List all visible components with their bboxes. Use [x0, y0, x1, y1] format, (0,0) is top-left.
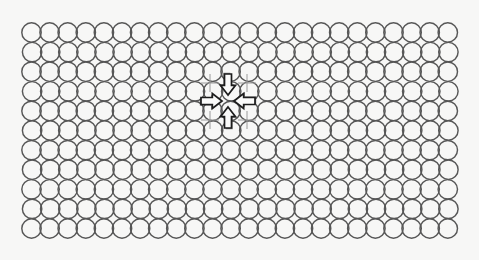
figure-root — [0, 0, 479, 260]
lattice-diagram — [0, 0, 479, 260]
